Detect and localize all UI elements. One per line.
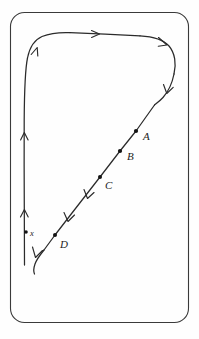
point-dot-B [118,149,122,153]
top-horizontal-segment [70,33,140,36]
point-label-C: C [105,179,113,191]
point-dot-A [134,129,138,133]
point-dot-C [98,175,102,179]
left-vertical-segment [24,58,27,265]
point-dot-x [24,230,28,234]
diagram-frame [11,13,189,323]
arrowhead-diagonal-tail [33,247,43,258]
arrowhead-top-right-curve [158,38,167,47]
point-label-x: x [29,228,34,238]
top-right-curve [140,36,175,74]
point-dot-D [53,233,57,237]
point-label-A: A [142,130,150,142]
upper-left-curve [28,33,71,58]
figure-canvas: A B C D x [0,0,199,339]
point-label-B: B [127,150,134,162]
arrowhead-upper-left-curve [31,48,38,57]
trajectory-diagram: A B C D x [0,0,199,339]
point-label-D: D [59,238,68,250]
